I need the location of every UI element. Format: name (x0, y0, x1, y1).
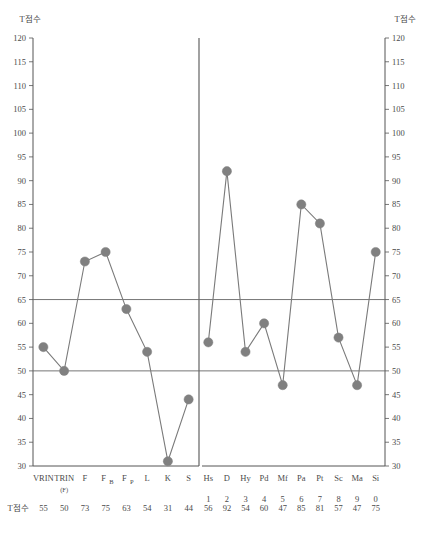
scale-value: 50 (60, 503, 69, 513)
category-label: Sc (334, 473, 343, 483)
scale-value: 31 (164, 503, 173, 513)
y-tick-label-right: 40 (392, 413, 401, 423)
category-label: Mf (278, 473, 289, 483)
data-point[interactable] (334, 333, 343, 342)
plot-frames (33, 38, 385, 466)
profile-plot-area: T점수T점수1201201151151101101051051001009595… (0, 0, 428, 533)
category-label: Si (372, 473, 380, 483)
data-point[interactable] (278, 381, 287, 390)
y-tick-label-left: 90 (18, 176, 27, 186)
series-validity-scales (39, 247, 193, 465)
scale-value: 57 (334, 503, 343, 513)
y-tick-label-right: 105 (392, 104, 405, 114)
y-tick-label-right: 35 (392, 437, 401, 447)
scale-value: 73 (81, 503, 90, 513)
scale-value: 75 (101, 503, 110, 513)
left-panel-border (33, 38, 199, 466)
y-tick-label-right: 115 (392, 57, 404, 67)
y-tick-label-right: 75 (392, 247, 401, 257)
y-tick-label-right: 100 (392, 128, 405, 138)
y-tick-label-left: 65 (18, 295, 27, 305)
scale-value: 54 (241, 503, 250, 513)
data-point[interactable] (101, 247, 110, 256)
data-point[interactable] (353, 381, 362, 390)
y-tick-label-left: 70 (18, 271, 27, 281)
category-subscript: B (109, 478, 114, 485)
scale-value: 47 (353, 503, 362, 513)
scale-value: 44 (184, 503, 193, 513)
y-tick-label-left: 95 (18, 152, 27, 162)
data-point[interactable] (315, 219, 324, 228)
y-tick-label-right: 90 (392, 176, 401, 186)
category-label: VRIN (33, 473, 54, 483)
scale-value: 54 (143, 503, 152, 513)
y-tick-label-left: 60 (18, 318, 27, 328)
category-label: Hs (204, 473, 213, 483)
category-label: L (145, 473, 150, 483)
category-subscript: P (130, 478, 134, 485)
y-tick-label-right: 95 (392, 152, 401, 162)
category-label: Pa (297, 473, 306, 483)
data-point[interactable] (163, 457, 172, 466)
data-point[interactable] (184, 395, 193, 404)
y-tick-label-left: 80 (18, 223, 27, 233)
y-tick-label-left: 35 (18, 437, 27, 447)
y-tick-label-right: 120 (392, 33, 405, 43)
category-label: Hy (240, 473, 251, 483)
y-tick-label-right: 110 (392, 81, 404, 91)
category-label: F (83, 473, 88, 483)
y-tick-label-right: 30 (392, 461, 401, 471)
category-label: Pd (260, 473, 270, 483)
scale-value: 75 (371, 503, 380, 513)
data-point[interactable] (241, 347, 250, 356)
series-line (208, 171, 375, 385)
data-point[interactable] (371, 247, 380, 256)
data-point[interactable] (80, 257, 89, 266)
y-tick-label-left: 110 (14, 81, 26, 91)
data-point[interactable] (122, 304, 131, 313)
y-axis-ticks (29, 38, 389, 466)
series-line (43, 252, 188, 461)
value-row-title: T점수 (7, 503, 28, 513)
data-point[interactable] (39, 343, 48, 352)
y-tick-label-left: 45 (18, 390, 27, 400)
y-tick-label-right: 65 (392, 295, 401, 305)
y-tick-label-right: 55 (392, 342, 401, 352)
y-tick-label-left: 50 (18, 366, 27, 376)
y-tick-label-left: 105 (13, 104, 26, 114)
scale-value: 60 (260, 503, 269, 513)
scale-value: 85 (297, 503, 306, 513)
mmpi-profile-chart: T점수T점수1201201151151101101051051001009595… (0, 0, 428, 533)
category-label: F (101, 473, 106, 483)
scale-value: 56 (204, 503, 213, 513)
scale-value: 55 (39, 503, 48, 513)
y-tick-label-right: 85 (392, 199, 401, 209)
y-tick-label-right: 50 (392, 366, 401, 376)
category-label: Ma (351, 473, 363, 483)
data-point[interactable] (60, 366, 69, 375)
data-point[interactable] (260, 319, 269, 328)
scale-value: 92 (223, 503, 232, 513)
y-tick-label-left: 40 (18, 413, 27, 423)
y-tick-label-left: 120 (13, 33, 26, 43)
category-label: D (224, 473, 230, 483)
y-tick-label-left: 85 (18, 199, 27, 209)
y-tick-label-right: 80 (392, 223, 401, 233)
y-tick-label-left: 55 (18, 342, 27, 352)
y-tick-label-left: 75 (18, 247, 27, 257)
scale-value: 81 (316, 503, 325, 513)
y-tick-label-left: 30 (18, 461, 27, 471)
series-clinical-scales (204, 167, 381, 390)
y-tick-label-right: 45 (392, 390, 401, 400)
y-tick-label-right: 60 (392, 318, 401, 328)
category-label: Pt (316, 473, 324, 483)
scale-value: 63 (122, 503, 131, 513)
y-tick-label-left: 115 (14, 57, 26, 67)
category-label: S (186, 473, 191, 483)
data-point[interactable] (204, 338, 213, 347)
y-tick-label-left: 100 (13, 128, 26, 138)
data-point[interactable] (222, 167, 231, 176)
data-point[interactable] (143, 347, 152, 356)
data-point[interactable] (297, 200, 306, 209)
scale-value: 47 (278, 503, 287, 513)
